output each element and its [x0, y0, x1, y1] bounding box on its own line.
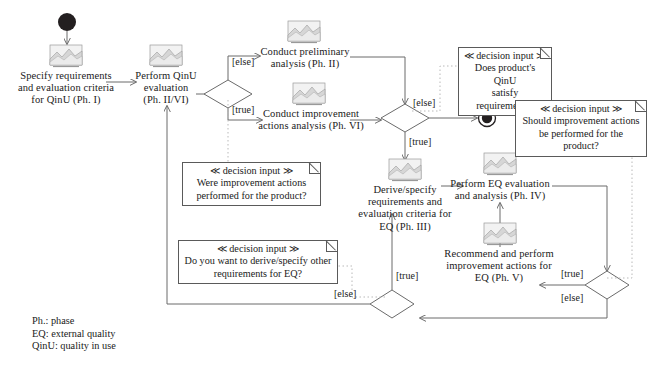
guard-true-derive: [true] [409, 136, 431, 147]
note-title: ≪ decision input ≫ [187, 165, 316, 177]
edge-preliminary-to-decision2 [350, 57, 405, 104]
legend-abbreviations: Ph.: phase EQ: external quality QinU: qu… [32, 315, 116, 353]
note-were-improvement: ≪ decision input ≫ Were improvement acti… [182, 162, 321, 206]
activity-label-recommend-eq: Recommend and perform improvement action… [437, 248, 561, 285]
activity-image-icon [287, 20, 321, 44]
note-body: Should improvement actions be performed … [520, 115, 642, 152]
guard-true-derive-again: [true] [396, 270, 418, 281]
decision-qinu-satisfy-shape [381, 104, 429, 132]
activity-label-perform-eq: Perform EQ evaluation and analysis (Ph. … [447, 178, 553, 202]
initial-node-dot [58, 13, 76, 31]
note-derive-other: ≪ decision input ≫ Do you want to derive… [178, 240, 338, 284]
activity-image-icon [483, 152, 517, 176]
guard-true-improvement: [true] [232, 104, 254, 115]
decision-eq-other-requirements-shape [370, 290, 414, 318]
note-body: Do you want to derive/specify other requ… [183, 255, 333, 280]
activity-image-icon [292, 82, 326, 106]
activity-label-derive-eq: Derive/specify requirements and evaluati… [350, 184, 460, 233]
activity-label-specify-qinu: Specify requirements and evaluation crit… [6, 70, 126, 107]
activity-image-icon [388, 158, 422, 182]
activity-label-conduct-improvement: Conduct improvement actions analysis (Ph… [256, 108, 366, 132]
decision-eq-improvement-shape [585, 271, 629, 299]
activity-label-conduct-preliminary: Conduct preliminary analysis (Ph. II) [258, 46, 352, 70]
guard-else-preliminary: [else] [232, 56, 254, 67]
note-title: ≪ decision input ≫ [183, 243, 333, 255]
activity-image-icon [49, 44, 83, 68]
guard-else-final: [else] [413, 97, 435, 108]
note-title: ≪ decision input ≫ [520, 103, 642, 115]
note-should-improvement: ≪ decision input ≫ Should improvement ac… [515, 100, 647, 157]
note-fold-corner [326, 241, 337, 252]
note-fold-corner [540, 48, 551, 59]
note-fold-corner [635, 101, 646, 112]
activity-image-icon [149, 44, 183, 68]
note-fold-corner [309, 163, 320, 174]
activity-label-perform-qinu: Perform QinU evaluation (Ph. II/VI) [129, 70, 203, 107]
note-anchor-should-improvement [607, 144, 632, 278]
note-title: ≪ decision input ≫ [463, 50, 547, 62]
guard-true-recommend: [true] [561, 268, 583, 279]
note-body: Were improvement actions performed for t… [187, 177, 316, 202]
guard-else-qinu-loop: [else] [334, 288, 356, 299]
guard-else-eq-loop: [else] [561, 292, 583, 303]
activity-image-icon [483, 222, 517, 246]
activity-diagram-canvas: Specify requirements and evaluation crit… [0, 0, 652, 366]
